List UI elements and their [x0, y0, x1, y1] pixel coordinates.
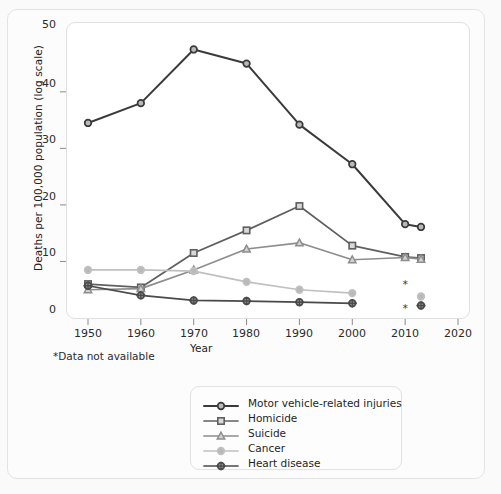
series-homicide [85, 203, 424, 291]
legend-item-motor-vehicle[interactable]: Motor vehicle-related injuries [202, 395, 402, 410]
legend-item-suicide[interactable]: Suicide [202, 425, 286, 440]
axis-ticks [60, 92, 458, 325]
legend-label-cancer: Cancer [248, 442, 285, 454]
missing-data-asterisk: * [402, 278, 408, 291]
chart-page: Deaths per 100,000 population (log scale… [0, 0, 501, 494]
legend-item-homicide[interactable]: Homicide [202, 410, 297, 425]
series-motor-vehicle-related-injuries [85, 46, 425, 230]
legend-label-suicide: Suicide [248, 427, 286, 439]
missing-data-asterisk: * [402, 302, 408, 315]
legend-swatch-heart-disease-icon [202, 457, 240, 469]
legend-swatch-cancer-icon [202, 442, 240, 454]
legend-label-motor-vehicle: Motor vehicle-related injuries [248, 397, 402, 409]
legend-label-heart-disease: Heart disease [248, 457, 320, 469]
legend-item-cancer[interactable]: Cancer [202, 440, 285, 455]
chart-legend: Motor vehicle-related injuries Homicide … [190, 386, 402, 470]
legend-item-heart-disease[interactable]: Heart disease [202, 455, 320, 470]
legend-label-homicide: Homicide [248, 412, 297, 424]
legend-swatch-motor-vehicle-icon [202, 397, 240, 409]
series-heart-disease [83, 282, 425, 310]
legend-swatch-suicide-icon [202, 427, 240, 439]
series-suicide [84, 239, 424, 293]
legend-swatch-homicide-icon [202, 412, 240, 424]
